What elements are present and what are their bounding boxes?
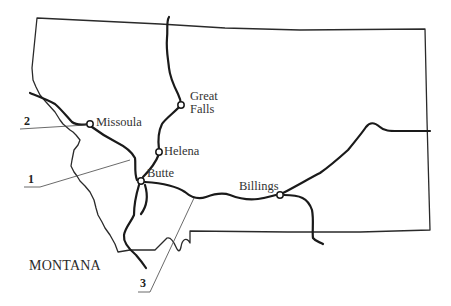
leader-line-1 [24,160,130,187]
leader-line-3 [138,198,194,292]
river-missouri [158,17,181,150]
river-yellowstone-east [283,123,430,193]
river-south-east [141,185,147,214]
river-missoula-to-butte [92,127,137,180]
callout-number-1: 1 [28,172,34,187]
river-clark-fork [30,93,88,125]
callout-number-3: 3 [140,276,146,291]
city-label-missoula: Missoula [96,116,142,129]
city-label-great-falls: Great Falls [190,90,218,116]
river-south-west [124,185,146,268]
city-dot-great-falls [178,102,184,108]
city-dot-butte [138,178,144,184]
river-bighorn [284,195,323,244]
callout-number-2: 2 [24,114,30,129]
city-label-butte: Butte [147,167,174,180]
city-label-great-falls-line2: Falls [190,103,218,116]
city-dot-missoula [87,121,93,127]
city-dot-helena [156,149,162,155]
state-label: MONTANA [29,258,101,274]
state-border [32,18,430,252]
city-label-billings: Billings [239,180,279,193]
city-label-helena: Helena [164,145,199,158]
